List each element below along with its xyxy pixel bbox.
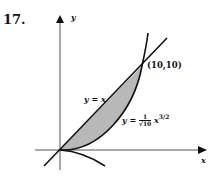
x-axis-label: x — [201, 155, 206, 165]
fraction-denominator: √10 — [139, 121, 151, 127]
y-axis-arrow-icon — [56, 15, 64, 23]
line-label: y = x — [84, 94, 106, 104]
curve-label-prefix: y = — [122, 115, 136, 125]
curve-label: y = 1 √10 x3/2 — [122, 113, 169, 127]
curve-label-exponent: 3/2 — [159, 113, 170, 120]
curve-lower-branch — [60, 150, 105, 166]
x-axis-arrow-icon — [198, 146, 207, 154]
intersection-label: (10,10) — [147, 60, 182, 70]
graph — [0, 0, 217, 183]
curve-label-fraction: 1 √10 — [139, 114, 151, 127]
y-axis-label: y — [71, 12, 76, 22]
